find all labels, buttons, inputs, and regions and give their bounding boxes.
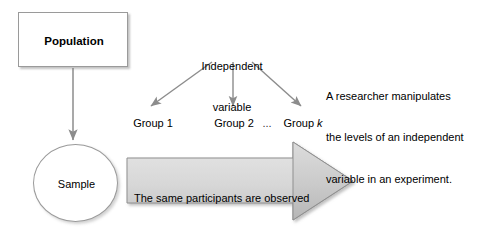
researcher-note: A researcher manipulates the levels of a…	[326, 62, 486, 214]
diagram-canvas: Population Sample Independent variable G…	[0, 0, 488, 231]
researcher-note-line1: A researcher manipulates	[326, 90, 486, 104]
banner-text: The same participants are observed in ea…	[134, 164, 294, 231]
independent-variable-line1: Independent	[182, 60, 282, 74]
population-label: Population	[19, 13, 129, 68]
sample-label: Sample	[34, 145, 119, 223]
independent-variable-line2: variable	[182, 101, 282, 115]
group-label-k: Group k	[272, 117, 334, 131]
population-node: Population	[18, 12, 128, 67]
researcher-note-line3: variable in an experiment.	[326, 173, 486, 187]
researcher-note-line2: the levels of an independent	[326, 131, 486, 145]
group-label-1: Group 1	[122, 117, 184, 131]
banner-text-line1: The same participants are observed	[134, 192, 294, 206]
group-label-k-prefix: Group	[283, 117, 317, 129]
sample-node: Sample	[33, 144, 118, 222]
group-label-k-symbol: k	[317, 117, 323, 129]
